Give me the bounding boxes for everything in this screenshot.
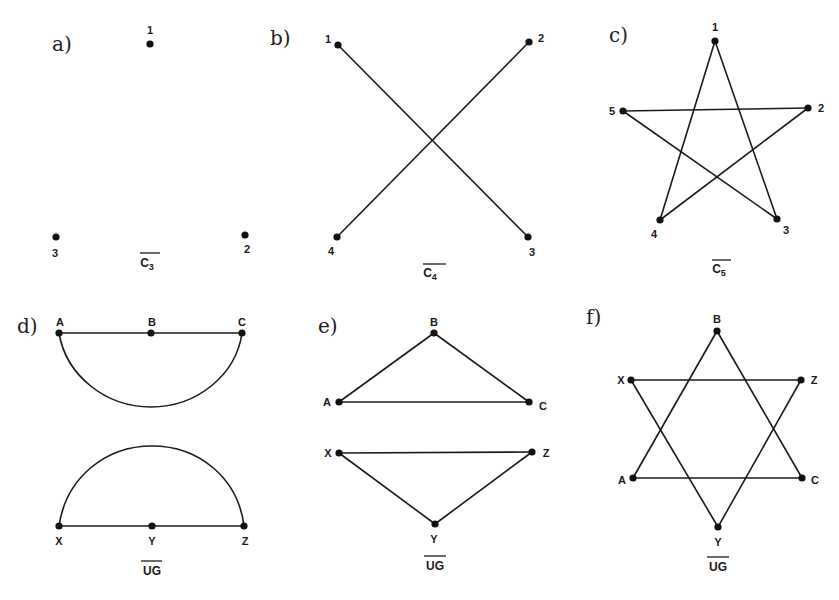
edge-b-c: [717, 331, 802, 478]
caption-c5: C5: [712, 262, 726, 278]
panel-f: f) B X Z A C Y UG: [586, 305, 819, 574]
node-A: [55, 329, 62, 336]
node-2: [241, 231, 248, 238]
node-label-B: B: [148, 316, 156, 328]
edge-2-4: [660, 108, 808, 220]
node-label-C: C: [539, 400, 547, 412]
node-B: [430, 329, 437, 336]
node-label-X: X: [617, 374, 625, 386]
edge-x-y: [339, 453, 435, 524]
node-C: [238, 329, 245, 336]
node-label-X: X: [324, 447, 332, 459]
node-label-A: A: [56, 316, 64, 328]
edge-x-y: [631, 380, 718, 527]
node-label-5: 5: [609, 105, 615, 117]
node-label-3: 3: [783, 224, 789, 236]
node-X: [627, 376, 634, 383]
node-label-A: A: [618, 474, 626, 486]
edge-x-z: [339, 452, 532, 453]
node-label-B: B: [713, 313, 721, 325]
panel-e: e) A B C X Y Z UG: [318, 314, 550, 573]
node-label-C: C: [811, 474, 819, 486]
node-label-Y: Y: [714, 536, 722, 548]
edge-a-b: [339, 333, 434, 402]
panel-b: b) 1 2 3 4 C4: [270, 26, 544, 282]
node-X: [55, 522, 62, 529]
arc-x-z: [59, 446, 244, 526]
node-C: [798, 474, 805, 481]
edge-2-4: [337, 42, 529, 237]
node-label-1: 1: [147, 24, 153, 36]
caption-c4: C4: [423, 266, 437, 282]
node-label-Z: Z: [543, 447, 550, 459]
panel-label-b: b): [270, 26, 291, 50]
node-B: [713, 327, 720, 334]
node-label-X: X: [55, 535, 63, 547]
edge-y-z: [435, 452, 532, 524]
graph-complements-figure: a) 1 2 3 C3 b) 1 2 3 4 C4 c): [0, 0, 839, 600]
caption-ug: UG: [143, 564, 161, 578]
panel-a: a) 1 2 3 C3: [52, 24, 250, 272]
edge-5-2: [623, 108, 808, 111]
node-5: [619, 107, 626, 114]
panel-label-f: f): [586, 305, 601, 329]
node-label-2: 2: [538, 32, 544, 44]
node-label-4: 4: [328, 245, 335, 257]
node-3: [52, 233, 59, 240]
node-label-1: 1: [712, 21, 718, 33]
node-label-Z: Z: [811, 374, 818, 386]
node-1: [146, 40, 153, 47]
node-B: [147, 329, 154, 336]
node-4: [333, 233, 340, 240]
panel-label-d: d): [17, 314, 38, 338]
node-Z: [528, 448, 535, 455]
node-label-3: 3: [529, 246, 535, 258]
node-3: [524, 233, 531, 240]
node-4: [656, 216, 663, 223]
node-1: [334, 41, 341, 48]
edge-b-c: [434, 333, 529, 402]
node-label-3: 3: [52, 247, 58, 259]
node-label-Y: Y: [148, 535, 156, 547]
node-Y: [714, 523, 721, 530]
node-label-4: 4: [651, 228, 658, 240]
node-C: [525, 398, 532, 405]
node-A: [629, 474, 636, 481]
node-A: [335, 398, 342, 405]
node-label-B: B: [430, 316, 438, 328]
caption-ug: UG: [426, 559, 444, 573]
node-3: [773, 215, 780, 222]
node-label-1: 1: [325, 33, 331, 45]
edge-1-4: [660, 41, 715, 220]
panel-d: d) A B C X Y Z UG: [17, 314, 249, 578]
panel-c: c) 1 2 3 4 5 C5: [609, 21, 824, 278]
node-Z: [240, 522, 247, 529]
panel-label-a: a): [52, 32, 72, 56]
node-2: [525, 38, 532, 45]
node-label-C: C: [238, 316, 246, 328]
arc-a-c: [59, 333, 242, 407]
node-label-2: 2: [818, 102, 824, 114]
edge-1-3: [715, 41, 777, 219]
node-1: [711, 37, 718, 44]
panel-label-e: e): [318, 314, 338, 338]
panel-label-c: c): [609, 23, 628, 47]
node-label-2: 2: [244, 243, 250, 255]
edge-1-3: [338, 45, 528, 237]
node-label-Y: Y: [430, 533, 438, 545]
node-Y: [148, 522, 155, 529]
edge-5-3: [623, 111, 777, 219]
node-label-A: A: [323, 396, 331, 408]
node-label-Z: Z: [242, 535, 249, 547]
node-Y: [431, 520, 438, 527]
node-X: [335, 449, 342, 456]
caption-c3: C3: [140, 256, 154, 272]
node-2: [804, 104, 811, 111]
caption-ug: UG: [709, 560, 727, 574]
node-Z: [797, 376, 804, 383]
